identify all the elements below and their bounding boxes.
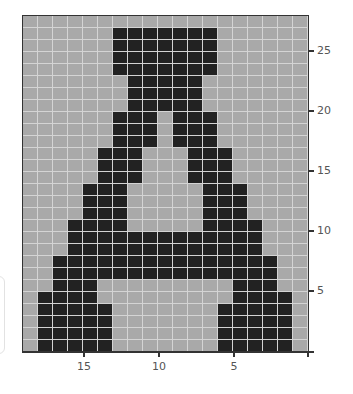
- empty-cell: [68, 100, 83, 112]
- empty-cell: [203, 304, 218, 316]
- empty-cell: [293, 316, 308, 328]
- filled-cell: [143, 52, 158, 64]
- empty-cell: [293, 208, 308, 220]
- empty-cell: [98, 64, 113, 76]
- empty-cell: [38, 40, 53, 52]
- filled-cell: [143, 40, 158, 52]
- empty-cell: [293, 292, 308, 304]
- empty-cell: [158, 148, 173, 160]
- empty-cell: [23, 124, 38, 136]
- filled-cell: [83, 208, 98, 220]
- empty-cell: [23, 196, 38, 208]
- empty-cell: [278, 244, 293, 256]
- empty-cell: [173, 316, 188, 328]
- y-tick-mark: [308, 230, 314, 232]
- empty-cell: [158, 16, 173, 28]
- y-tick-label: 5: [317, 284, 324, 297]
- filled-cell: [263, 256, 278, 268]
- empty-cell: [263, 244, 278, 256]
- y-tick-label: 15: [317, 164, 331, 177]
- filled-cell: [248, 220, 263, 232]
- filled-cell: [173, 40, 188, 52]
- filled-cell: [143, 64, 158, 76]
- empty-cell: [68, 64, 83, 76]
- filled-cell: [128, 88, 143, 100]
- empty-cell: [248, 52, 263, 64]
- filled-cell: [188, 100, 203, 112]
- empty-cell: [68, 136, 83, 148]
- filled-cell: [173, 100, 188, 112]
- empty-cell: [23, 328, 38, 340]
- empty-cell: [173, 292, 188, 304]
- empty-cell: [53, 112, 68, 124]
- empty-cell: [233, 52, 248, 64]
- empty-cell: [263, 220, 278, 232]
- filled-cell: [158, 52, 173, 64]
- filled-cell: [173, 112, 188, 124]
- y-tick-mark: [308, 50, 314, 52]
- empty-cell: [68, 196, 83, 208]
- filled-cell: [248, 328, 263, 340]
- empty-cell: [173, 184, 188, 196]
- empty-cell: [38, 244, 53, 256]
- filled-cell: [83, 304, 98, 316]
- filled-cell: [233, 328, 248, 340]
- empty-cell: [233, 172, 248, 184]
- empty-cell: [23, 268, 38, 280]
- empty-cell: [68, 172, 83, 184]
- empty-cell: [263, 52, 278, 64]
- empty-cell: [68, 28, 83, 40]
- filled-cell: [83, 220, 98, 232]
- empty-cell: [53, 232, 68, 244]
- empty-cell: [263, 40, 278, 52]
- empty-cell: [68, 124, 83, 136]
- empty-cell: [23, 112, 38, 124]
- filled-cell: [188, 160, 203, 172]
- empty-cell: [38, 268, 53, 280]
- filled-cell: [203, 244, 218, 256]
- y-tick-mark: [308, 110, 314, 112]
- empty-cell: [23, 220, 38, 232]
- empty-cell: [293, 304, 308, 316]
- filled-cell: [173, 124, 188, 136]
- filled-cell: [263, 316, 278, 328]
- filled-cell: [38, 316, 53, 328]
- filled-cell: [98, 268, 113, 280]
- filled-cell: [113, 112, 128, 124]
- filled-cell: [128, 100, 143, 112]
- empty-cell: [143, 208, 158, 220]
- empty-cell: [128, 208, 143, 220]
- empty-cell: [158, 124, 173, 136]
- empty-cell: [23, 316, 38, 328]
- filled-cell: [173, 136, 188, 148]
- filled-cell: [203, 172, 218, 184]
- filled-cell: [143, 268, 158, 280]
- empty-cell: [263, 160, 278, 172]
- empty-cell: [293, 28, 308, 40]
- empty-cell: [98, 124, 113, 136]
- empty-cell: [248, 172, 263, 184]
- empty-cell: [173, 328, 188, 340]
- filled-cell: [38, 292, 53, 304]
- filled-cell: [158, 100, 173, 112]
- empty-cell: [278, 16, 293, 28]
- empty-cell: [83, 28, 98, 40]
- filled-cell: [173, 52, 188, 64]
- empty-cell: [203, 88, 218, 100]
- empty-cell: [293, 16, 308, 28]
- empty-cell: [293, 232, 308, 244]
- filled-cell: [233, 208, 248, 220]
- filled-cell: [188, 232, 203, 244]
- empty-cell: [38, 196, 53, 208]
- empty-cell: [188, 208, 203, 220]
- empty-cell: [218, 112, 233, 124]
- empty-cell: [98, 76, 113, 88]
- empty-cell: [158, 208, 173, 220]
- empty-cell: [23, 148, 38, 160]
- filled-cell: [233, 292, 248, 304]
- empty-cell: [38, 160, 53, 172]
- empty-cell: [248, 112, 263, 124]
- filled-cell: [98, 220, 113, 232]
- empty-cell: [263, 196, 278, 208]
- empty-cell: [248, 40, 263, 52]
